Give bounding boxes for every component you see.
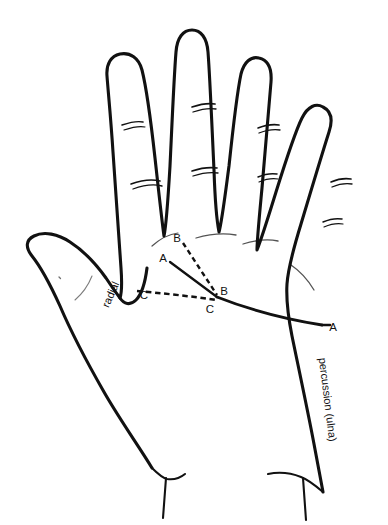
- line-c-to-c-dashed: [137, 291, 216, 300]
- wrist-right-crease: [268, 473, 323, 492]
- hand-outline-path: [27, 30, 331, 492]
- point-label-b-upper: B: [173, 232, 181, 244]
- point-label-c-left: C: [140, 289, 148, 301]
- palm-crease-distal-middle: [196, 234, 236, 238]
- wrist-left-drop: [163, 478, 166, 518]
- line-a-to-a-solid: [170, 262, 217, 297]
- point-label-b-lower: B: [220, 285, 228, 297]
- wrist-left-crease: [152, 468, 185, 479]
- palm-crease-hypothenar: [291, 265, 314, 290]
- point-label-c-lower: C: [206, 303, 214, 315]
- point-label-a-upper: A: [159, 252, 167, 264]
- ring-finger-crease-proximal: [258, 174, 278, 182]
- point-labels-group: B A C B C A: [140, 232, 337, 333]
- wrist-right-drop: [303, 478, 306, 520]
- hand-drawing-canvas: B A C B C A radial percussion (ulna): [0, 0, 388, 525]
- index-finger-crease-distal: [122, 122, 145, 130]
- hand-outline-group: [27, 30, 331, 520]
- little-finger-crease-proximal: [323, 219, 343, 227]
- little-finger-crease-distal: [331, 179, 352, 187]
- point-label-a-right: A: [329, 321, 337, 333]
- ring-finger-crease-distal: [258, 125, 280, 133]
- hand-landmark-diagram: B A C B C A radial percussion (ulna): [0, 0, 388, 525]
- percussion-ulna-border-label: percussion (ulna): [317, 357, 339, 442]
- thumb-tip-mark: [59, 277, 61, 279]
- line-a-to-a-solid-ext: [217, 297, 322, 325]
- edge-labels-group: radial percussion (ulna): [99, 280, 339, 442]
- thumb-crease: [75, 276, 92, 300]
- line-b-to-b-dashed: [183, 243, 217, 295]
